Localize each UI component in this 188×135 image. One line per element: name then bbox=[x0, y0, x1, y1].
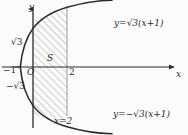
y-tick-label-neg-sqrt3: −√3 bbox=[6, 82, 25, 91]
math-figure: y x O −1 2 √3 −√3 S x=2 y=√3(x+1) y=−√3(… bbox=[0, 0, 188, 135]
region-label-s: S bbox=[47, 54, 53, 63]
curve-upper-equation-label: y=√3(x+1) bbox=[114, 19, 163, 28]
x-tick-label-2: 2 bbox=[69, 68, 75, 77]
origin-label: O bbox=[27, 68, 34, 77]
x-tick-label-neg1: −1 bbox=[3, 66, 16, 75]
vertical-line-label-x2: x=2 bbox=[54, 117, 72, 126]
curve-lower-equation-label: y=−√3(x+1) bbox=[113, 110, 170, 119]
x-axis-label: x bbox=[176, 70, 181, 79]
y-tick-label-sqrt3: √3 bbox=[11, 38, 22, 47]
y-axis-label: y bbox=[29, 3, 34, 12]
